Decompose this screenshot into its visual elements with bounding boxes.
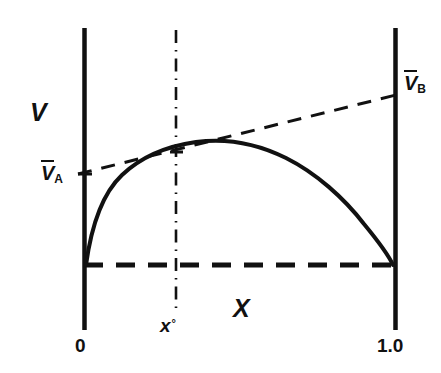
composition-marker-superscript: ° [172,317,176,329]
partial-molar-volume-b-label: VB [404,70,426,95]
composition-marker-label: x° [160,316,176,335]
partial-molar-volume-a-label: VA [41,160,63,185]
x-tick-label-1: 1.0 [377,336,403,355]
y-axis-label: V [30,100,47,125]
x-axis-label: X [233,296,250,321]
composition-marker-symbol: x [160,315,171,336]
partial-molar-volume-b-subscript: B [417,83,426,95]
x-tick-label-0: 0 [75,336,86,355]
partial-molar-volume-b-symbol: V [404,70,417,93]
tangent-dashed-line [78,94,400,174]
partial-molar-volume-a-symbol: V [41,160,54,183]
partial-molar-volume-plot [0,0,441,373]
partial-molar-volume-a-subscript: A [54,173,63,185]
figure-container: V X x° VA VB 0 1.0 [0,0,441,373]
